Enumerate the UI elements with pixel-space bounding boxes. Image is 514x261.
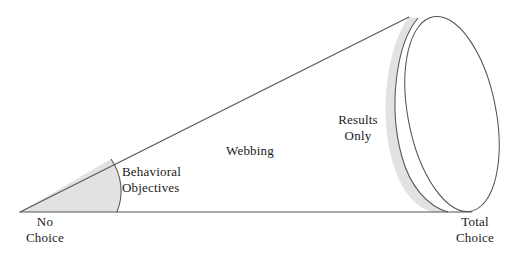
cone-diagram-graphic <box>0 0 514 261</box>
cone-upper-edge-line <box>20 17 409 212</box>
cone-diagram-figure: No Choice Behavioral Objectives Webbing … <box>0 0 514 261</box>
